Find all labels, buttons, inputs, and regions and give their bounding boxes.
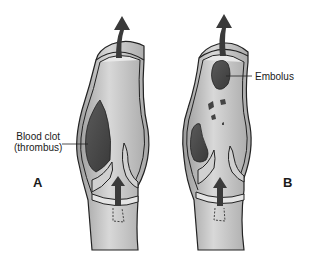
- panel-letter-b: B: [283, 175, 292, 190]
- vein-diagram: [0, 0, 309, 258]
- thrombus-label-line2: (thrombus): [14, 142, 62, 153]
- panel-a-vein: [77, 16, 149, 250]
- clot-fragment: [220, 99, 226, 105]
- panel-b-vein: [183, 14, 251, 250]
- thrombus-label: Blood clot (thrombus): [14, 131, 62, 153]
- panel-letter-a: A: [33, 175, 42, 190]
- embolus: [212, 60, 231, 89]
- thrombus-label-line1: Blood clot: [14, 131, 62, 142]
- embolus-label: Embolus: [255, 71, 294, 82]
